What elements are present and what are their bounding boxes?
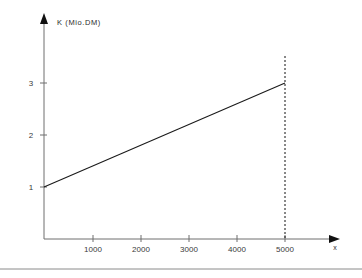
cost-function-line: [44, 83, 285, 187]
cost-function-chart: 3 2 1 1000 2000 3000 4000 5000 K (Mio.DM…: [0, 0, 362, 278]
chart-canvas: 3 2 1 1000 2000 3000 4000 5000 K (Mio.DM…: [0, 0, 362, 278]
x-tick-label-4000: 4000: [228, 245, 246, 254]
x-tick-label-5000: 5000: [276, 245, 294, 254]
y-tick-label-2: 2: [29, 131, 34, 140]
x-tick-label-3000: 3000: [180, 245, 198, 254]
x-axis-label: x: [333, 244, 337, 251]
y-axis-label: K (Mio.DM): [57, 18, 101, 27]
x-tick-label-2000: 2000: [132, 245, 150, 254]
y-tick-label-1: 1: [29, 183, 34, 192]
x-tick-label-1000: 1000: [84, 245, 102, 254]
y-tick-label-3: 3: [29, 79, 34, 88]
x-axis-arrow-icon: [329, 235, 340, 243]
y-axis-arrow-icon: [40, 13, 48, 24]
